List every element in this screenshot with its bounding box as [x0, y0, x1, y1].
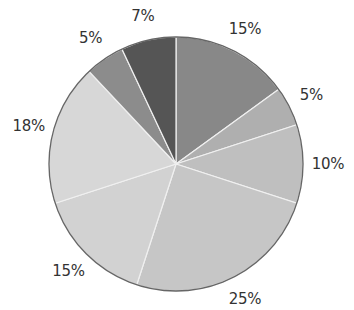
- slice-label: 10%: [312, 155, 344, 173]
- slice-label: 18%: [13, 117, 45, 135]
- slice-label: 7%: [131, 7, 154, 25]
- slice-label: 15%: [229, 20, 261, 38]
- slice-label: 5%: [300, 86, 323, 104]
- slice-label: 15%: [52, 262, 84, 280]
- slice-label: 25%: [229, 290, 261, 308]
- slice-label: 5%: [79, 29, 102, 47]
- pie-slices: [49, 37, 303, 291]
